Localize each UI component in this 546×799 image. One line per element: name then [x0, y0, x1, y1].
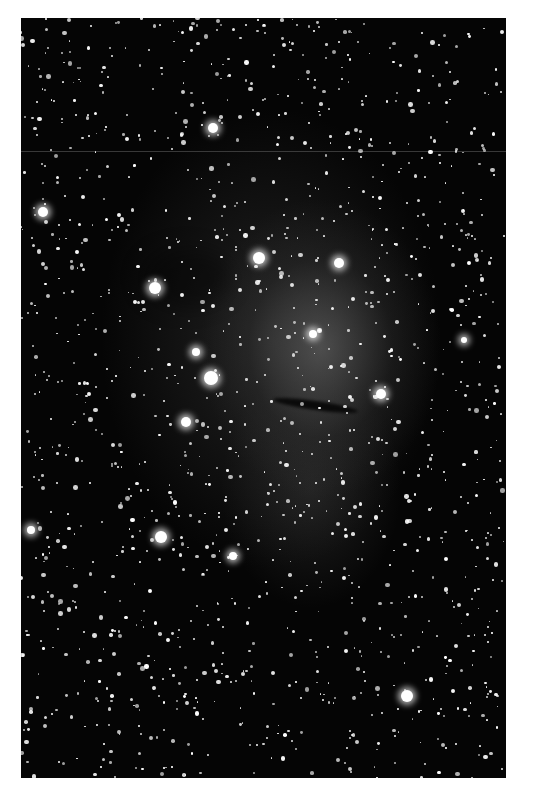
star [399, 64, 402, 67]
star [27, 312, 29, 314]
star [203, 111, 206, 114]
star [325, 57, 327, 59]
star [187, 472, 189, 474]
star [108, 289, 110, 291]
star [358, 149, 362, 153]
star [424, 763, 426, 765]
star [202, 102, 204, 104]
star [202, 671, 206, 675]
star [252, 109, 254, 111]
star [329, 135, 332, 138]
star [229, 420, 232, 423]
star [468, 35, 471, 38]
star [204, 34, 208, 38]
star [283, 417, 286, 420]
star [285, 237, 287, 239]
star [162, 678, 164, 680]
star [451, 263, 455, 267]
star [330, 457, 332, 459]
star [372, 196, 374, 198]
star [185, 126, 187, 128]
star [402, 227, 404, 229]
star [283, 214, 285, 216]
star [325, 171, 328, 174]
star [295, 351, 298, 354]
star [286, 499, 290, 503]
star [115, 375, 117, 377]
star [34, 451, 36, 453]
star [111, 229, 113, 231]
star [139, 561, 141, 563]
star [41, 163, 43, 165]
star [245, 510, 248, 513]
star [56, 452, 59, 455]
star [195, 711, 200, 716]
star [98, 175, 100, 177]
star [362, 541, 364, 543]
star [487, 641, 489, 643]
star [78, 382, 81, 385]
star [46, 74, 50, 78]
star [448, 659, 451, 662]
bright-star [204, 371, 218, 385]
star [165, 209, 167, 211]
star [235, 249, 237, 251]
star [471, 539, 473, 541]
star [344, 534, 348, 538]
star [108, 292, 110, 294]
star [336, 522, 340, 526]
star [31, 237, 33, 239]
star [224, 410, 226, 412]
star [262, 743, 264, 745]
star [274, 325, 277, 328]
star [311, 387, 315, 391]
star [226, 469, 229, 472]
star [108, 239, 111, 242]
star [314, 562, 316, 564]
star [111, 443, 115, 447]
star [460, 381, 462, 383]
star [279, 538, 281, 540]
star [65, 454, 67, 456]
star [199, 772, 202, 775]
star [398, 171, 400, 173]
star [278, 484, 280, 486]
star [474, 450, 477, 453]
star [120, 502, 122, 504]
star [89, 482, 91, 484]
star [215, 235, 219, 239]
star [297, 237, 299, 239]
star [41, 573, 45, 577]
star [355, 740, 359, 744]
star [220, 256, 222, 258]
star [365, 291, 367, 293]
star [351, 582, 353, 584]
star [347, 54, 349, 56]
star [256, 381, 258, 383]
star [131, 393, 136, 398]
star [428, 102, 430, 104]
star [89, 572, 93, 576]
star [267, 358, 270, 361]
star [419, 536, 421, 538]
star [235, 680, 237, 682]
star [172, 674, 175, 677]
star [188, 217, 191, 220]
star [211, 554, 215, 558]
star [283, 537, 286, 540]
star [236, 138, 240, 142]
star [248, 650, 250, 652]
star [281, 37, 284, 40]
star [185, 701, 189, 705]
star [290, 283, 294, 287]
bright-star [309, 330, 317, 338]
star [350, 771, 352, 773]
bright-star [461, 337, 467, 343]
star [229, 307, 234, 312]
star [128, 176, 130, 178]
star [278, 114, 280, 116]
star [208, 135, 210, 137]
star [171, 766, 173, 768]
star [315, 571, 318, 574]
star [431, 419, 433, 421]
